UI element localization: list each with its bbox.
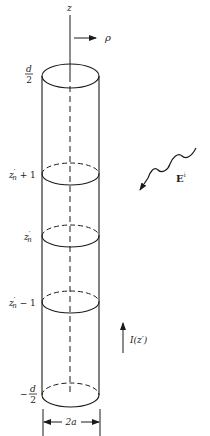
svg-text:d: d: [26, 64, 32, 74]
diameter-label: 2a: [64, 417, 76, 427]
svg-text:z′n + 1: z′n + 1: [8, 168, 36, 182]
svg-text:2: 2: [30, 395, 36, 405]
label-z-n-minus-1: z′n − 1: [8, 296, 36, 310]
incident-field-arrow: [140, 148, 196, 190]
z-axis-label: z: [66, 3, 72, 13]
svg-text:d: d: [30, 384, 36, 394]
antenna-diagram: z ρ d 2 z′n + 1: [0, 0, 210, 436]
current-label: I(z′): [129, 335, 148, 345]
svg-text:2: 2: [26, 75, 32, 85]
svg-text:z′n: z′n: [23, 230, 32, 244]
top-position-label: d 2: [25, 64, 33, 85]
svg-text:−: −: [20, 389, 28, 399]
svg-text:z′n − 1: z′n − 1: [8, 296, 36, 310]
label-z-n: z′n: [23, 230, 32, 244]
rho-label: ρ: [104, 32, 111, 43]
incident-field-label: Ei: [176, 171, 186, 184]
bottom-position-label: − d 2: [20, 384, 37, 405]
label-z-n-plus-1: z′n + 1: [8, 168, 36, 182]
